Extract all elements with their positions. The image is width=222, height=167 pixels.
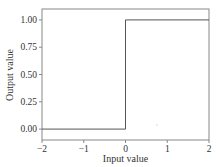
y-tick-label: 0.75 bbox=[20, 42, 37, 52]
x-tick-label: −2 bbox=[37, 144, 47, 154]
y-axis-label: Output value bbox=[4, 48, 15, 100]
x-tick-label: 1 bbox=[165, 144, 170, 154]
step-function-chart: 0.000.250.500.751.00 −2−1012 Input value… bbox=[0, 0, 222, 167]
y-tick-label: 0.25 bbox=[20, 97, 37, 107]
stray-dot bbox=[156, 124, 157, 125]
y-tick-label: 1.00 bbox=[20, 15, 37, 25]
x-tick-label: 2 bbox=[207, 144, 212, 154]
y-axis-ticks: 0.000.250.500.751.00 bbox=[20, 15, 42, 134]
y-tick-label: 0.00 bbox=[20, 124, 37, 134]
x-tick-label: −1 bbox=[79, 144, 89, 154]
y-tick-label: 0.50 bbox=[20, 70, 37, 80]
x-axis-ticks: −2−1012 bbox=[37, 140, 212, 154]
x-axis-label: Input value bbox=[103, 153, 149, 164]
